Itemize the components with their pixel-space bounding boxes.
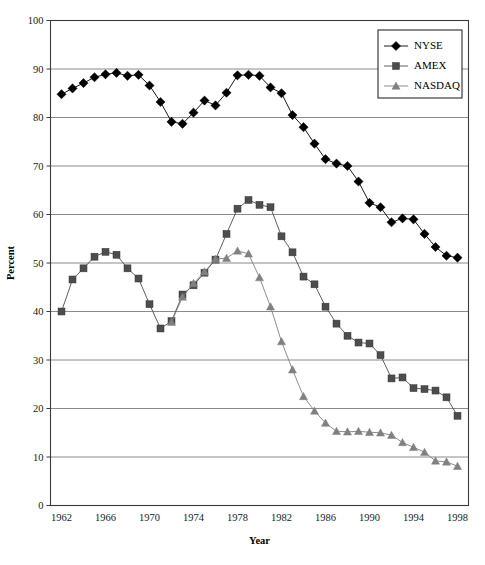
- x-tick-label-1978: 1978: [227, 512, 248, 523]
- marker-amex-24: [322, 303, 329, 310]
- marker-nasdaq-9: [267, 303, 275, 310]
- marker-amex-2: [80, 265, 87, 272]
- marker-nyse-4: [101, 70, 110, 79]
- axis-ticks: [47, 21, 51, 506]
- marker-amex-32: [410, 385, 417, 392]
- marker-nasdaq-11: [289, 366, 297, 373]
- marker-amex-33: [421, 386, 428, 393]
- marker-amex-30: [388, 375, 395, 382]
- x-tick-label-1962: 1962: [51, 512, 72, 523]
- data-series-group: [57, 68, 462, 469]
- marker-amex-9: [157, 325, 164, 332]
- marker-nyse-29: [376, 203, 385, 212]
- x-tick-label-1982: 1982: [271, 512, 292, 523]
- marker-nasdaq-24: [432, 457, 440, 464]
- x-tick-label-1994: 1994: [403, 512, 425, 523]
- marker-nyse-0: [57, 90, 66, 99]
- marker-amex-0: [58, 308, 65, 315]
- chart-legend: NYSEAMEXNASDAQ: [378, 30, 462, 98]
- legend-label-nasdaq: NASDAQ: [414, 79, 460, 91]
- marker-nyse-6: [123, 71, 132, 80]
- marker-nyse-3: [90, 73, 99, 82]
- marker-nyse-28: [365, 198, 374, 207]
- marker-amex-25: [333, 320, 340, 327]
- marker-nasdaq-22: [410, 443, 418, 450]
- y-tick-label-100: 100: [28, 15, 44, 26]
- y-axis-tick-labels: 0102030405060708090100: [28, 15, 44, 511]
- marker-nasdaq-15: [333, 427, 341, 434]
- marker-nyse-20: [277, 89, 286, 98]
- marker-amex-8: [146, 301, 153, 308]
- x-tick-label-1970: 1970: [139, 512, 160, 523]
- marker-amex-36: [454, 412, 461, 419]
- marker-nyse-27: [354, 177, 363, 186]
- marker-nyse-26: [343, 161, 352, 170]
- legend-marker-amex: [393, 63, 400, 70]
- y-tick-label-70: 70: [33, 161, 44, 172]
- marker-nasdaq-6: [234, 247, 242, 254]
- marker-amex-22: [300, 273, 307, 280]
- legend-label-amex: AMEX: [414, 59, 446, 71]
- x-tick-label-1986: 1986: [315, 512, 336, 523]
- legend-label-nyse: NYSE: [414, 39, 443, 51]
- marker-amex-26: [344, 332, 351, 339]
- series-line-amex: [62, 200, 458, 416]
- marker-nyse-9: [156, 97, 165, 106]
- marker-nyse-25: [332, 159, 341, 168]
- marker-amex-28: [366, 340, 373, 347]
- marker-amex-29: [377, 352, 384, 359]
- marker-nyse-16: [233, 71, 242, 80]
- marker-amex-31: [399, 374, 406, 381]
- marker-nyse-1: [68, 84, 77, 93]
- marker-nyse-36: [453, 253, 462, 262]
- x-tick-label-1990: 1990: [359, 512, 380, 523]
- series-line-nyse: [62, 73, 458, 258]
- y-tick-label-50: 50: [33, 258, 44, 269]
- chart-container: 0102030405060708090100 19621966197019741…: [0, 0, 485, 565]
- y-tick-label-30: 30: [33, 355, 44, 366]
- marker-amex-6: [124, 265, 131, 272]
- marker-amex-3: [91, 253, 98, 260]
- x-tick-label-1998: 1998: [447, 512, 468, 523]
- marker-amex-34: [432, 387, 439, 394]
- marker-nyse-2: [79, 78, 88, 87]
- y-tick-label-60: 60: [33, 209, 44, 220]
- marker-amex-4: [102, 248, 109, 255]
- marker-nyse-32: [409, 215, 418, 224]
- marker-amex-27: [355, 339, 362, 346]
- marker-nasdaq-26: [454, 462, 462, 469]
- series-nasdaq: [168, 247, 462, 470]
- gridlines: [51, 69, 469, 457]
- y-tick-label-10: 10: [33, 452, 44, 463]
- marker-amex-18: [256, 201, 263, 208]
- marker-amex-17: [245, 196, 252, 203]
- marker-nasdaq-17: [355, 427, 363, 434]
- marker-nasdaq-12: [300, 392, 308, 399]
- marker-nasdaq-10: [278, 338, 286, 345]
- x-tick-label-1974: 1974: [183, 512, 205, 523]
- marker-nasdaq-21: [399, 438, 407, 445]
- marker-amex-19: [267, 204, 274, 211]
- x-axis-tick-labels: 1962196619701974197819821986199019941998: [51, 512, 468, 523]
- marker-nasdaq-23: [421, 448, 429, 455]
- marker-amex-21: [289, 249, 296, 256]
- marker-nasdaq-8: [256, 274, 264, 281]
- y-tick-label-0: 0: [38, 500, 43, 511]
- y-tick-label-40: 40: [33, 306, 44, 317]
- marker-nyse-5: [112, 68, 121, 77]
- marker-nyse-31: [398, 214, 407, 223]
- line-chart: 0102030405060708090100 19621966197019741…: [0, 0, 485, 565]
- y-tick-label-20: 20: [33, 403, 44, 414]
- marker-nyse-17: [244, 70, 253, 79]
- marker-nyse-10: [167, 117, 176, 126]
- marker-nyse-35: [442, 251, 451, 260]
- marker-nyse-30: [387, 218, 396, 227]
- marker-amex-35: [443, 394, 450, 401]
- marker-amex-23: [311, 281, 318, 288]
- marker-nyse-24: [321, 155, 330, 164]
- x-axis-title: Year: [249, 535, 270, 546]
- marker-amex-20: [278, 233, 285, 240]
- y-axis-title: Percent: [5, 245, 16, 280]
- y-tick-label-90: 90: [33, 64, 44, 75]
- x-tick-label-1966: 1966: [95, 512, 116, 523]
